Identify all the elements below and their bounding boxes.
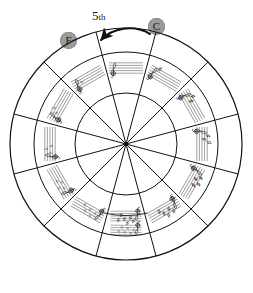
flat-accidental: ♭	[47, 144, 54, 147]
key-signature-staff: ♯♯♯♯♯	[144, 193, 184, 228]
spoke-inner	[126, 55, 150, 144]
circle-of-fifths-diagram: 5th C F ♯♯♯♯♯♯♯♯♯♯♯♯♯♯♯♯♯♯♯♯♯♭♭♭♭♭♭♭♭♭♭♭…	[0, 0, 253, 293]
spoke-outer	[150, 233, 156, 256]
key-signature-staff: ♯♯	[175, 86, 209, 125]
fifth-arrow	[101, 28, 150, 40]
key-signature-staff: ♯	[144, 61, 183, 95]
spoke-inner	[126, 144, 191, 209]
spoke-inner	[126, 144, 215, 168]
spoke-inner	[61, 144, 126, 209]
center-hub	[124, 142, 128, 146]
spoke-outer	[191, 209, 208, 226]
spoke-outer	[215, 114, 238, 120]
sharp-accidental: ♯	[157, 65, 163, 73]
key-signature-staff: ♯♯♯	[192, 127, 213, 161]
flat-accidental: ♭	[81, 202, 87, 210]
sharp-accidental: ♯	[156, 208, 162, 216]
spoke-inner	[61, 79, 126, 144]
sharp-accidental: ♯	[117, 217, 120, 223]
sharp-accidental: ♯	[188, 98, 196, 104]
spoke-outer	[150, 32, 156, 55]
spoke-outer	[14, 114, 37, 120]
key-signature-staff: ♯♯♯♯♯♯	[110, 207, 141, 225]
spoke-inner	[126, 79, 191, 144]
spoke-outer	[96, 32, 102, 55]
spoke-outer	[191, 62, 208, 79]
flat-accidental: ♭	[50, 105, 58, 111]
wheel-svg: ♯♯♯♯♯♯♯♯♯♯♯♯♯♯♯♯♯♯♯♯♯♭♭♭♭♭♭♭♭♭♭♭♭♭♭♭♭♭♭♭…	[0, 0, 253, 293]
key-signature-staff: ♭♭♭	[42, 127, 60, 161]
spoke-inner	[37, 120, 126, 144]
key-signature-staff	[109, 63, 143, 78]
enharmonic-split-divider	[105, 213, 148, 216]
key-signature-staff: ♯♯♯♯	[175, 162, 210, 202]
key-signature-staff: ♭	[71, 65, 108, 95]
spoke-outer	[14, 168, 37, 174]
sharp-accidental: ♯	[206, 141, 213, 144]
spoke-inner	[102, 144, 126, 233]
spoke-outer	[215, 168, 238, 174]
spoke-outer	[44, 62, 61, 79]
spoke-outer	[44, 209, 61, 226]
flat-accidental: ♭	[117, 229, 120, 235]
spoke-outer	[96, 233, 102, 256]
